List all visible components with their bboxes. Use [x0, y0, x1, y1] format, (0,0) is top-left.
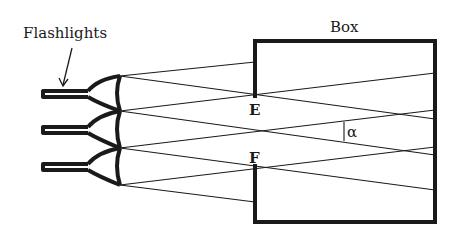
point-f-label: F [249, 149, 260, 167]
flashlights [43, 76, 120, 185]
ray [120, 110, 435, 148]
pointer-arrow [59, 48, 72, 86]
flashlight-body [43, 76, 120, 111]
ray [120, 147, 435, 185]
ray [120, 73, 435, 111]
ray [120, 76, 435, 119]
flashlight-box-diagram: Flashlights Box E F α [0, 0, 457, 237]
box [255, 41, 435, 222]
flashlight-lens [117, 111, 120, 148]
ray [120, 111, 435, 155]
flashlight-lens [117, 148, 120, 185]
flashlight-body [43, 111, 120, 148]
box-label: Box [330, 18, 359, 36]
box-upper-wall [255, 41, 435, 222]
ray [120, 62, 255, 76]
angle-alpha-label: α [347, 123, 357, 141]
light-rays [120, 62, 435, 202]
ray [120, 185, 255, 202]
point-e-label: E [249, 101, 260, 119]
flashlight-body [43, 148, 120, 185]
ray [120, 148, 435, 190]
flashlights-label: Flashlights [23, 24, 107, 42]
flashlight-lens [117, 76, 120, 111]
